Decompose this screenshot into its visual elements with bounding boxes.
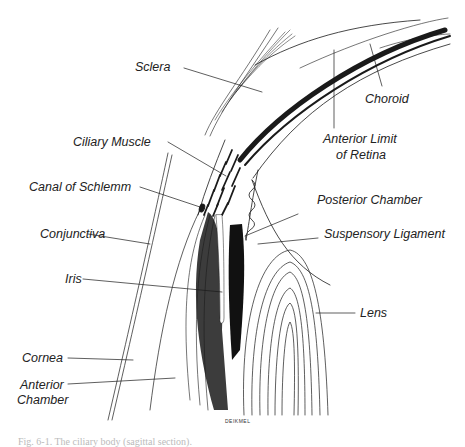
figure-caption: Fig. 6-1. The ciliary body (sagittal sec… — [18, 436, 192, 447]
label-anterior-chamber-line1: Anterior — [20, 378, 64, 393]
label-suspensory-ligament: Suspensory Ligament — [324, 227, 445, 242]
label-lens: Lens — [360, 306, 387, 321]
label-sclera: Sclera — [135, 60, 170, 75]
label-anterior-chamber-line2: Chamber — [17, 393, 68, 408]
label-conjunctiva: Conjunctiva — [40, 227, 105, 242]
leader-lines — [68, 44, 382, 384]
label-ciliary-muscle: Ciliary Muscle — [73, 135, 151, 150]
lens-drawing — [243, 250, 328, 415]
label-posterior-chamber: Posterior Chamber — [317, 193, 422, 208]
artist-signature: DEIKMEL — [225, 418, 250, 424]
label-anterior-limit-of-retina-line2: of Retina — [336, 148, 386, 163]
label-canal-of-schlemm: Canal of Schlemm — [29, 180, 131, 195]
label-anterior-limit-of-retina-line1: Anterior Limit — [323, 132, 397, 147]
label-iris: Iris — [65, 272, 82, 287]
label-choroid: Choroid — [365, 92, 409, 107]
sclera-drawing — [205, 20, 420, 136]
label-cornea: Cornea — [22, 351, 63, 366]
